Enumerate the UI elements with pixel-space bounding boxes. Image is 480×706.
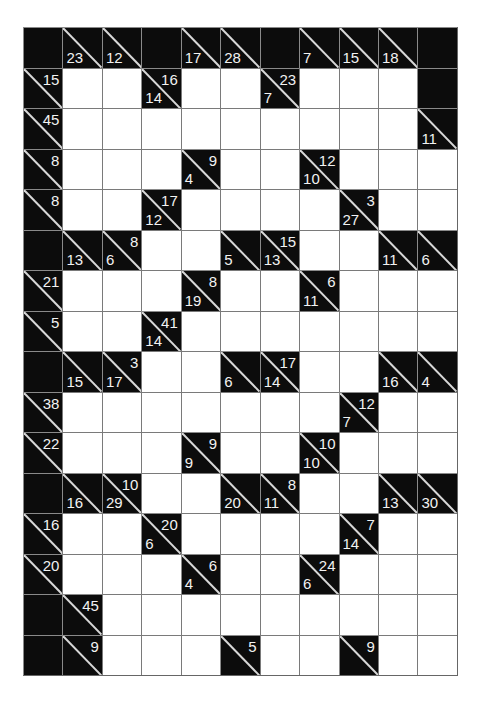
entry-cell[interactable] xyxy=(102,189,141,230)
entry-cell[interactable] xyxy=(220,270,259,311)
entry-cell[interactable] xyxy=(220,108,259,149)
entry-cell[interactable] xyxy=(102,635,141,676)
entry-cell[interactable] xyxy=(378,108,417,149)
entry-cell[interactable] xyxy=(378,594,417,635)
entry-cell[interactable] xyxy=(299,473,338,514)
entry-cell[interactable] xyxy=(141,473,180,514)
entry-cell[interactable] xyxy=(181,230,220,271)
entry-cell[interactable] xyxy=(141,270,180,311)
entry-cell[interactable] xyxy=(220,432,259,473)
entry-cell[interactable] xyxy=(339,351,378,392)
entry-cell[interactable] xyxy=(260,149,299,190)
entry-cell[interactable] xyxy=(62,311,101,352)
entry-cell[interactable] xyxy=(181,189,220,230)
entry-cell[interactable] xyxy=(141,108,180,149)
entry-cell[interactable] xyxy=(417,189,456,230)
entry-cell[interactable] xyxy=(339,270,378,311)
entry-cell[interactable] xyxy=(260,392,299,433)
entry-cell[interactable] xyxy=(260,311,299,352)
entry-cell[interactable] xyxy=(220,189,259,230)
entry-cell[interactable] xyxy=(299,311,338,352)
entry-cell[interactable] xyxy=(260,594,299,635)
entry-cell[interactable] xyxy=(299,513,338,554)
entry-cell[interactable] xyxy=(339,149,378,190)
entry-cell[interactable] xyxy=(141,635,180,676)
entry-cell[interactable] xyxy=(102,149,141,190)
entry-cell[interactable] xyxy=(299,108,338,149)
entry-cell[interactable] xyxy=(339,311,378,352)
entry-cell[interactable] xyxy=(417,554,456,595)
entry-cell[interactable] xyxy=(339,473,378,514)
entry-cell[interactable] xyxy=(339,594,378,635)
entry-cell[interactable] xyxy=(220,311,259,352)
entry-cell[interactable] xyxy=(220,594,259,635)
entry-cell[interactable] xyxy=(378,635,417,676)
entry-cell[interactable] xyxy=(378,311,417,352)
entry-cell[interactable] xyxy=(417,513,456,554)
entry-cell[interactable] xyxy=(417,149,456,190)
entry-cell[interactable] xyxy=(102,108,141,149)
entry-cell[interactable] xyxy=(378,68,417,109)
entry-cell[interactable] xyxy=(141,554,180,595)
entry-cell[interactable] xyxy=(339,432,378,473)
entry-cell[interactable] xyxy=(378,432,417,473)
entry-cell[interactable] xyxy=(102,594,141,635)
entry-cell[interactable] xyxy=(62,513,101,554)
entry-cell[interactable] xyxy=(378,270,417,311)
entry-cell[interactable] xyxy=(181,108,220,149)
entry-cell[interactable] xyxy=(102,311,141,352)
entry-cell[interactable] xyxy=(181,635,220,676)
entry-cell[interactable] xyxy=(62,68,101,109)
entry-cell[interactable] xyxy=(102,392,141,433)
entry-cell[interactable] xyxy=(62,108,101,149)
entry-cell[interactable] xyxy=(417,270,456,311)
entry-cell[interactable] xyxy=(141,594,180,635)
entry-cell[interactable] xyxy=(62,392,101,433)
entry-cell[interactable] xyxy=(339,108,378,149)
entry-cell[interactable] xyxy=(102,432,141,473)
entry-cell[interactable] xyxy=(141,392,180,433)
entry-cell[interactable] xyxy=(181,351,220,392)
entry-cell[interactable] xyxy=(181,392,220,433)
entry-cell[interactable] xyxy=(102,68,141,109)
entry-cell[interactable] xyxy=(102,554,141,595)
entry-cell[interactable] xyxy=(260,513,299,554)
entry-cell[interactable] xyxy=(417,594,456,635)
entry-cell[interactable] xyxy=(62,270,101,311)
entry-cell[interactable] xyxy=(181,513,220,554)
entry-cell[interactable] xyxy=(181,68,220,109)
entry-cell[interactable] xyxy=(181,311,220,352)
entry-cell[interactable] xyxy=(62,189,101,230)
entry-cell[interactable] xyxy=(220,68,259,109)
entry-cell[interactable] xyxy=(378,392,417,433)
entry-cell[interactable] xyxy=(62,149,101,190)
entry-cell[interactable] xyxy=(299,230,338,271)
entry-cell[interactable] xyxy=(181,594,220,635)
entry-cell[interactable] xyxy=(141,432,180,473)
entry-cell[interactable] xyxy=(339,68,378,109)
entry-cell[interactable] xyxy=(220,554,259,595)
entry-cell[interactable] xyxy=(378,554,417,595)
entry-cell[interactable] xyxy=(299,189,338,230)
entry-cell[interactable] xyxy=(299,635,338,676)
entry-cell[interactable] xyxy=(220,392,259,433)
entry-cell[interactable] xyxy=(339,554,378,595)
entry-cell[interactable] xyxy=(417,311,456,352)
entry-cell[interactable] xyxy=(378,149,417,190)
entry-cell[interactable] xyxy=(141,149,180,190)
entry-cell[interactable] xyxy=(260,108,299,149)
entry-cell[interactable] xyxy=(220,149,259,190)
entry-cell[interactable] xyxy=(220,513,259,554)
entry-cell[interactable] xyxy=(62,554,101,595)
entry-cell[interactable] xyxy=(260,189,299,230)
entry-cell[interactable] xyxy=(260,554,299,595)
entry-cell[interactable] xyxy=(299,351,338,392)
entry-cell[interactable] xyxy=(260,270,299,311)
entry-cell[interactable] xyxy=(181,473,220,514)
entry-cell[interactable] xyxy=(62,432,101,473)
entry-cell[interactable] xyxy=(299,68,338,109)
entry-cell[interactable] xyxy=(260,635,299,676)
entry-cell[interactable] xyxy=(339,230,378,271)
entry-cell[interactable] xyxy=(417,432,456,473)
entry-cell[interactable] xyxy=(417,392,456,433)
